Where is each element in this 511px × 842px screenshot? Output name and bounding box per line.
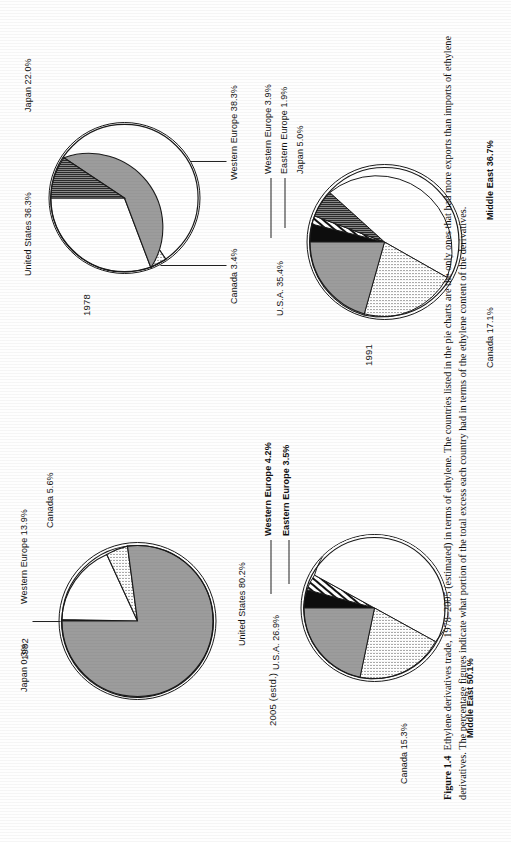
chart-title-2005: 2005 (estd.) — [266, 673, 277, 726]
figure-caption: Figure 1.4 Ethylene derivatives trade, 1… — [440, 32, 469, 800]
slice-label-2005-usa: U.S.A. 26.9% — [270, 615, 280, 670]
slice-label-2005-western-europe: Western Europe 4.2% — [262, 442, 272, 536]
slice-label-1978-japan: Japan 22.0% — [22, 58, 32, 112]
pie-svg-2005 — [301, 535, 447, 681]
slice-label-1982-canada: Canada 5.6% — [44, 472, 54, 528]
leader-1978-western-europe — [190, 161, 226, 162]
leader-2005-eastern-europe — [288, 540, 289, 584]
pie-chart-1978: 1978 — [0, 0, 256, 424]
slice-label-1991-western-europe: Western Europe 3.9% — [262, 84, 272, 174]
slice-label-1991-japan: Japan 5.0% — [294, 125, 304, 174]
leader-1991-eastern-europe — [284, 178, 285, 228]
pie-graphic-1978 — [48, 122, 200, 274]
leader-1982-japan — [32, 621, 60, 622]
chart-title-1991: 1991 — [362, 344, 373, 366]
slice-label-2005-eastern-europe: Eastern Europe 3.5% — [280, 445, 290, 536]
slice-label-1982-western-europe: Western Europe 13.9% — [18, 509, 28, 604]
slice-label-2005-canada: Canada 15.3% — [398, 723, 408, 784]
slice-label-1991-middle-east: Middle East 36.7% — [484, 140, 494, 220]
pie-svg-1991 — [307, 165, 461, 319]
figure-page: 1978 — [0, 0, 511, 842]
slice-label-1991-eastern-europe: Eastern Europe 1.9% — [278, 87, 288, 174]
slice-label-1991-canada: Canada 17.1% — [484, 307, 494, 368]
chart-title-1978: 1978 — [80, 294, 91, 316]
figure-caption-text: Ethylene derivatives trade, 1978–2005 (e… — [441, 36, 467, 800]
pie-graphic-2005 — [300, 534, 448, 682]
pie-graphic-1982 — [58, 542, 216, 700]
leader-1978-canada — [160, 265, 226, 266]
slice-label-1978-western-europe: Western Europe 38.3% — [228, 85, 238, 180]
pie-chart-1982: 1982 — [0, 418, 256, 842]
pie-svg-1982 — [59, 543, 215, 699]
slice-label-1982-japan: Japan 0.3% — [18, 643, 28, 692]
figure-number: Figure 1.4 — [441, 756, 452, 800]
slice-label-1978-united-states: United States 36.3% — [22, 192, 32, 276]
leader-1991-western-europe — [270, 178, 271, 238]
slice-label-1982-united-states: United States 80.2% — [236, 562, 246, 646]
slice-label-1978-canada: Canada 3.4% — [228, 248, 238, 304]
rotated-figure-canvas: 1978 — [0, 0, 511, 842]
pie-graphic-1991 — [306, 164, 462, 320]
slice-label-1991-usa: U.S.A. 35.4% — [274, 261, 284, 316]
pie-svg-1978 — [49, 123, 199, 273]
leader-2005-western-europe — [270, 540, 271, 594]
